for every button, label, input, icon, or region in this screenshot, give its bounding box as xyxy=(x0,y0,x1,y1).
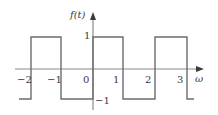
y-tick-minus-1: −1 xyxy=(95,95,110,106)
x-tick-0: 0 xyxy=(83,74,89,85)
x-axis-arrow-icon xyxy=(196,66,204,72)
x-tick-minus-1: −1 xyxy=(47,74,62,85)
square-wave-diagram: f(t) ω 1 −1 −2 −1 0 1 2 3 xyxy=(0,0,218,115)
x-tick-minus-2: −2 xyxy=(17,74,32,85)
square-waveform xyxy=(19,37,194,99)
x-tick-3: 3 xyxy=(177,74,183,85)
y-axis-arrow-icon xyxy=(90,12,96,20)
y-tick-1: 1 xyxy=(84,30,90,41)
x-tick-1: 1 xyxy=(113,74,119,85)
y-axis-label: f(t) xyxy=(69,9,86,20)
x-tick-2: 2 xyxy=(145,74,151,85)
x-axis-label: ω xyxy=(195,73,203,84)
